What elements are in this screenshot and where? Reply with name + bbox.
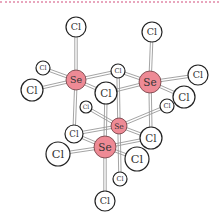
- molecule-diagram: ClClClClClClClClClClClClSeClSeClSeClSeCl: [0, 0, 219, 223]
- atom-label: Cl: [145, 132, 157, 144]
- atom-se_mid: Se: [111, 118, 127, 134]
- atom-label: Cl: [39, 64, 46, 72]
- atom-cl_mid_right: Cl: [140, 127, 162, 149]
- atom-label: Cl: [147, 26, 157, 37]
- atom-label: Cl: [163, 102, 170, 110]
- atom-label: Cl: [193, 69, 203, 80]
- atom-label: Cl: [52, 147, 65, 161]
- atom-cl_hidden: Cl: [80, 101, 92, 113]
- atom-cl_top_left: Cl: [66, 17, 86, 37]
- atom-label: Se: [98, 141, 111, 153]
- atom-cl_mid_left: Cl: [65, 125, 83, 143]
- atom-label: Cl: [131, 152, 144, 166]
- atom-cl_small_left: Cl: [36, 61, 50, 75]
- atom-cl_top_right: Cl: [142, 22, 162, 42]
- atom-label: Cl: [26, 84, 38, 96]
- atom-label: Se: [114, 122, 124, 131]
- atom-label: Cl: [100, 87, 112, 99]
- atom-label: Cl: [100, 195, 110, 206]
- atom-label: Cl: [116, 175, 123, 183]
- atom-cl_right2: Cl: [173, 86, 195, 108]
- atom-cl_right: Cl: [188, 65, 208, 85]
- atom-cl_bottom_left: Cl: [46, 142, 70, 166]
- atom-label: Cl: [71, 21, 81, 32]
- atom-cl_bridge_top: Cl: [111, 64, 125, 78]
- atom-se_front: Se: [94, 136, 116, 158]
- atom-cl_right_small: Cl: [160, 99, 174, 113]
- atom-cl_bottom_small: Cl: [113, 172, 127, 186]
- atom-cl_bottom: Cl: [95, 191, 115, 211]
- atom-cl_front_right: Cl: [125, 147, 149, 171]
- atom-label: Se: [143, 76, 156, 88]
- atom-cl_center: Cl: [95, 82, 117, 104]
- atom-label: Se: [70, 74, 83, 85]
- atom-label: Cl: [114, 67, 121, 75]
- atom-label: Cl: [178, 91, 190, 103]
- atom-se_top_left: Se: [66, 70, 86, 90]
- atom-cl_left: Cl: [21, 79, 43, 101]
- atom-label: Cl: [83, 103, 90, 110]
- atom-se_top_right: Se: [139, 71, 161, 93]
- atom-label: Cl: [69, 129, 79, 139]
- atoms-layer: ClClClClClClClClClClClClSeClSeClSeClSeCl: [21, 17, 208, 211]
